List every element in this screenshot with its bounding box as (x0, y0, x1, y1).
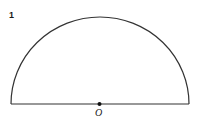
center-point (98, 102, 102, 106)
semicircle-arc (11, 17, 189, 104)
center-label: O (95, 107, 102, 118)
